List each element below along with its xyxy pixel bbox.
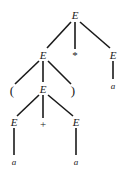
tree-edge: [80, 22, 110, 48]
tree-edge: [48, 61, 71, 84]
tree-node-n1: E: [40, 50, 47, 61]
tree-node-n6: ): [71, 84, 75, 97]
tree-edge: [48, 95, 73, 116]
tree-node-n7: a: [111, 82, 116, 91]
tree-node-n12: a: [74, 158, 79, 167]
tree-node-n0: E: [72, 10, 79, 21]
tree-node-n11: a: [12, 158, 17, 167]
tree-edge: [17, 95, 39, 116]
parse-tree-figure: EE*E(E)aE+Eaa: [0, 0, 132, 177]
tree-edge: [47, 22, 71, 48]
tree-node-n8: E: [11, 117, 18, 128]
tree-node-n4: (: [10, 84, 14, 97]
tree-node-n10: E: [73, 117, 80, 128]
tree-edge: [15, 61, 39, 84]
tree-node-n5: E: [40, 84, 47, 95]
tree-node-n3: E: [110, 50, 117, 61]
tree-node-n2: *: [72, 50, 78, 61]
tree-node-n9: +: [40, 119, 46, 130]
